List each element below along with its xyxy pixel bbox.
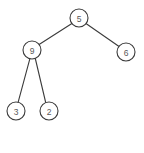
tree-node-left-left[interactable]: 3	[7, 102, 25, 120]
node-label: 5	[77, 14, 82, 24]
node-label: 3	[14, 107, 19, 117]
tree-node-right[interactable]: 6	[117, 43, 135, 61]
node-label: 6	[124, 48, 129, 58]
node-label: 9	[30, 46, 35, 56]
tree-node-root[interactable]: 5	[70, 9, 88, 27]
node-label: 2	[47, 107, 52, 117]
tree-node-left-right[interactable]: 2	[40, 102, 58, 120]
binary-tree-diagram: 5 9 6 3 2	[0, 0, 144, 153]
tree-node-left[interactable]: 9	[23, 41, 41, 59]
